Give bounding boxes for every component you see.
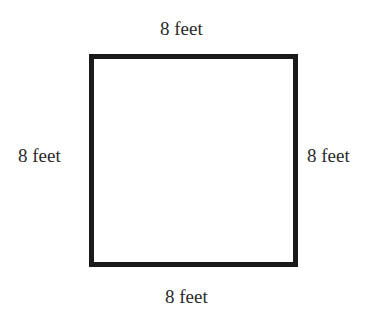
left-side-label: 8 feet [18,145,61,167]
top-side-label: 8 feet [160,18,203,40]
bottom-side-label: 8 feet [165,286,208,308]
square-shape [89,54,298,267]
right-side-label: 8 feet [307,145,350,167]
